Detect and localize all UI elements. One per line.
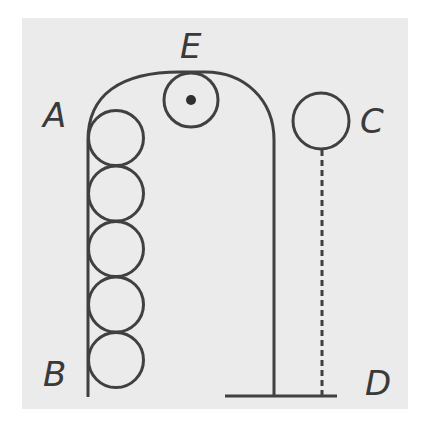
label-e: E bbox=[180, 26, 202, 66]
physics-diagram: A B C D E bbox=[0, 0, 425, 429]
label-b: B bbox=[43, 354, 66, 394]
ball-3 bbox=[89, 222, 144, 277]
ball-1 bbox=[89, 111, 144, 166]
label-a: A bbox=[41, 95, 66, 135]
label-d: D bbox=[365, 363, 391, 403]
ball-2 bbox=[89, 166, 144, 221]
stacked-balls bbox=[89, 111, 144, 388]
ball-c bbox=[293, 93, 349, 149]
ball-4 bbox=[89, 277, 144, 332]
ball-5 bbox=[89, 333, 144, 388]
label-c: C bbox=[360, 101, 384, 141]
ball-e-center-dot bbox=[186, 95, 196, 105]
track-tube bbox=[88, 72, 274, 397]
